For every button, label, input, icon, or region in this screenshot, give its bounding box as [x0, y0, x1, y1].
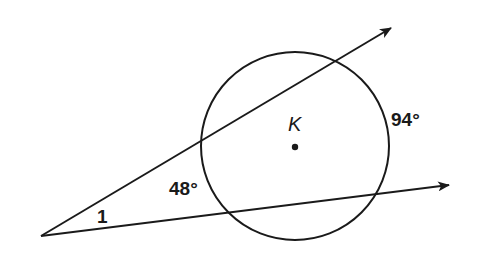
far-arc-label: 94° — [391, 109, 420, 130]
angle-1-label: 1 — [97, 206, 108, 227]
near-arc-label: 48° — [169, 178, 198, 199]
upper-secant-ray — [41, 28, 391, 236]
geometry-diagram: 1 48° 94° K — [0, 0, 479, 268]
center-point-k — [292, 144, 298, 150]
center-label-k: K — [288, 113, 303, 135]
